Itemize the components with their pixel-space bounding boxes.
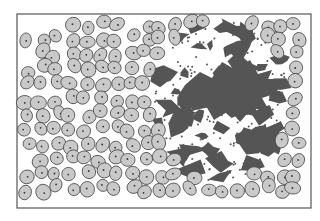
granule [177, 61, 179, 63]
granule [258, 117, 260, 119]
cell-nucleus [88, 143, 90, 145]
granule [229, 171, 231, 173]
granule [243, 107, 245, 109]
cell-nucleus [72, 155, 74, 157]
granule [264, 138, 266, 140]
granule [164, 97, 166, 99]
cell-nucleus [291, 175, 293, 177]
cell-nucleus [54, 173, 56, 175]
cell-body [46, 121, 60, 135]
granule [254, 86, 256, 88]
cell-nucleus [284, 158, 286, 160]
granule [190, 69, 192, 71]
cell-nucleus [113, 41, 115, 43]
granule [208, 156, 210, 158]
granule [196, 45, 198, 47]
granule [181, 136, 183, 138]
cell-nucleus [279, 26, 281, 28]
granule [277, 104, 279, 106]
granule [178, 147, 180, 149]
granule [221, 114, 223, 116]
cell-nucleus [298, 39, 300, 41]
cell-nucleus [147, 142, 149, 144]
granule [278, 91, 280, 93]
granule [203, 42, 205, 44]
granule [172, 91, 174, 93]
cell [247, 167, 262, 180]
granule [208, 168, 210, 170]
granule [253, 71, 255, 73]
cell [120, 153, 135, 167]
cell-nucleus [103, 169, 105, 171]
cell-nucleus [101, 184, 103, 186]
granule [165, 71, 167, 73]
granule [183, 165, 185, 167]
cell-nucleus [28, 143, 30, 145]
granule [172, 95, 174, 97]
granule [205, 134, 207, 136]
granule [237, 135, 239, 137]
granule [241, 142, 243, 144]
cell-nucleus [40, 81, 42, 83]
granule [243, 163, 245, 165]
granule [263, 85, 265, 87]
granule [283, 76, 285, 78]
cell-nucleus [157, 37, 159, 39]
cell-nucleus [24, 192, 26, 194]
granule [247, 111, 249, 113]
granule [202, 96, 204, 98]
granule [226, 72, 228, 74]
cell-nucleus [45, 39, 47, 41]
granule [207, 179, 209, 181]
granule [196, 98, 198, 100]
granule [234, 163, 236, 165]
granule [194, 94, 196, 96]
granule [268, 153, 270, 155]
cell-nucleus [88, 170, 90, 172]
cell-nucleus [236, 190, 238, 192]
cell-nucleus [158, 27, 160, 29]
cell-nucleus [133, 52, 135, 54]
granule [257, 38, 259, 40]
granule [188, 92, 190, 94]
cell-nucleus [208, 188, 210, 190]
cell-nucleus [55, 184, 57, 186]
cell-nucleus [59, 142, 61, 144]
cell-nucleus [82, 130, 84, 132]
granule [248, 129, 250, 131]
granule [224, 129, 226, 131]
cell-nucleus [101, 96, 103, 98]
granule [204, 28, 206, 30]
cell [286, 17, 300, 30]
cell-nucleus [292, 23, 294, 25]
cell-nucleus [129, 82, 131, 84]
cell-nucleus [295, 98, 297, 100]
cell-nucleus [41, 172, 43, 174]
granule [219, 137, 221, 139]
granule [182, 122, 184, 124]
cell [137, 44, 151, 56]
cell-nucleus [133, 33, 135, 35]
granule [182, 130, 184, 132]
cell-nucleus [56, 80, 58, 82]
granule [233, 22, 235, 24]
granule [260, 44, 262, 46]
cell-nucleus [57, 156, 59, 158]
cell [30, 96, 47, 110]
cell-nucleus [160, 156, 162, 158]
granule [224, 97, 226, 99]
granule [206, 63, 208, 65]
granule [220, 161, 222, 163]
granule [270, 117, 272, 119]
cell-nucleus [22, 129, 24, 131]
cell-nucleus [113, 67, 115, 69]
granule [220, 81, 222, 83]
cell-nucleus [69, 147, 71, 149]
cell-nucleus [117, 126, 119, 128]
granule [247, 160, 249, 162]
cell-nucleus [54, 101, 56, 103]
cell-nucleus [54, 35, 56, 37]
granule [200, 148, 202, 150]
cell-nucleus [131, 66, 133, 68]
granule [228, 28, 230, 30]
